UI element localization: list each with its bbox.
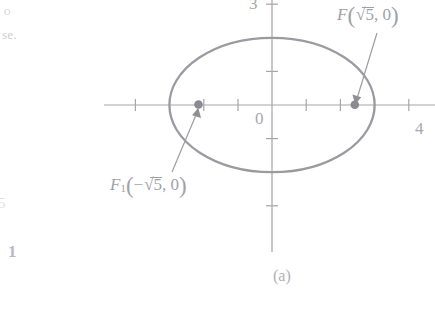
leader-line-left-focus <box>172 108 201 172</box>
focus-point-left <box>194 100 203 109</box>
focus-point-right <box>351 101 360 110</box>
focus-right-label: F(√05, 0) <box>337 6 399 23</box>
focus-left-name: F <box>110 175 120 194</box>
origin-label: 0 <box>255 110 264 127</box>
x-tick-label-4: 4 <box>415 120 424 137</box>
focus-right-name: F <box>337 5 347 24</box>
y-tick-label-3: 3 <box>249 0 258 12</box>
sqrt-radical-left: √5 <box>143 176 162 193</box>
ellipse-figure: o se. 5 1 <box>0 0 435 311</box>
focus-left-label: F1(−√5, 0) <box>110 176 187 194</box>
focus-right-y: 0 <box>382 5 391 24</box>
figure-caption: (a) <box>273 267 291 285</box>
focus-left-y: 0 <box>171 175 180 194</box>
sqrt-radical-right: √05 <box>355 6 374 23</box>
coordinate-plot <box>0 0 435 311</box>
